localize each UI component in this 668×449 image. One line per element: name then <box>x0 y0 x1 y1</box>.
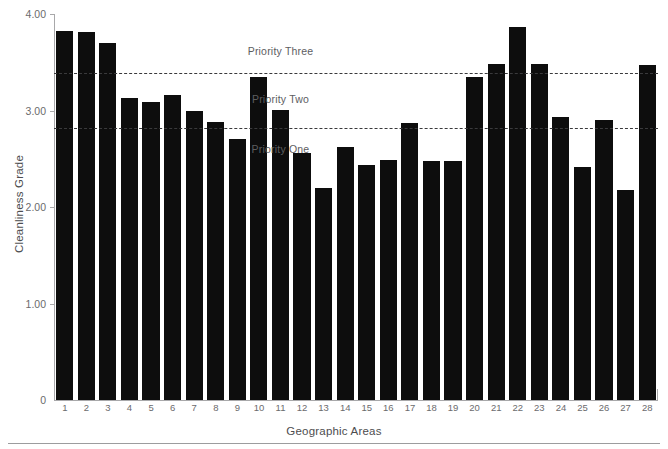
y-tick-label: 4.00 <box>6 8 46 20</box>
x-tick-label: 4 <box>119 402 141 413</box>
priority-annotation: Priority Two <box>252 93 309 105</box>
bar <box>444 161 461 400</box>
x-tick-label: 25 <box>572 402 594 413</box>
bar <box>358 165 375 400</box>
x-tick-label: 27 <box>615 402 637 413</box>
x-tick-label: 10 <box>248 402 270 413</box>
bar <box>207 122 224 400</box>
priority-annotation: Priority One <box>252 143 310 155</box>
bar <box>250 77 267 400</box>
x-tick-label: 17 <box>399 402 421 413</box>
plot-area: 01.002.003.004.00 Priority ThreePriority… <box>54 14 658 400</box>
bar <box>531 64 548 400</box>
x-tick-label: 3 <box>97 402 119 413</box>
x-tick-label: 23 <box>529 402 551 413</box>
bar <box>401 123 418 400</box>
bar <box>552 117 569 400</box>
bar <box>488 64 505 400</box>
bar <box>186 111 203 401</box>
x-tick-label: 28 <box>636 402 658 413</box>
bar <box>466 77 483 400</box>
x-axis-title: Geographic Areas <box>0 425 668 437</box>
x-axis-line <box>54 400 658 401</box>
bar <box>423 161 440 400</box>
x-tick-label: 26 <box>593 402 615 413</box>
bar <box>121 98 138 400</box>
bar <box>142 102 159 400</box>
x-tick-label: 5 <box>140 402 162 413</box>
threshold-line <box>54 128 658 129</box>
bar <box>78 32 95 400</box>
bar <box>99 43 116 400</box>
x-tick-label: 1 <box>54 402 76 413</box>
x-axis-ticks: 1234567891011121314151617181920212223242… <box>54 402 658 418</box>
x-tick-label: 22 <box>507 402 529 413</box>
x-tick-label: 9 <box>227 402 249 413</box>
x-tick-label: 8 <box>205 402 227 413</box>
y-tick-label: 3.00 <box>6 105 46 117</box>
chart-figure: Cleanliness Grade 01.002.003.004.00 Prio… <box>0 0 668 449</box>
priority-annotation: Priority Three <box>248 45 314 57</box>
x-tick-label: 2 <box>76 402 98 413</box>
x-tick-label: 6 <box>162 402 184 413</box>
footer-divider <box>8 443 660 444</box>
bar <box>574 167 591 400</box>
y-tick-label: 0 <box>6 394 46 406</box>
bar <box>617 190 634 400</box>
x-tick-label: 20 <box>464 402 486 413</box>
x-tick-label: 14 <box>334 402 356 413</box>
threshold-line <box>54 73 658 74</box>
y-tick-label: 1.00 <box>6 298 46 310</box>
bar <box>229 139 246 401</box>
bar <box>380 160 397 400</box>
bar <box>509 27 526 400</box>
x-tick-label: 12 <box>291 402 313 413</box>
bar <box>595 120 612 400</box>
x-tick-label: 13 <box>313 402 335 413</box>
x-tick-label: 11 <box>270 402 292 413</box>
x-tick-label: 24 <box>550 402 572 413</box>
x-tick-label: 15 <box>356 402 378 413</box>
bar <box>164 95 181 400</box>
x-tick-label: 7 <box>183 402 205 413</box>
x-tick-label: 18 <box>421 402 443 413</box>
bar <box>56 31 73 400</box>
x-tick-label: 16 <box>378 402 400 413</box>
bar <box>315 188 332 400</box>
x-tick-label: 21 <box>485 402 507 413</box>
x-tick-label: 19 <box>442 402 464 413</box>
y-tick-label: 2.00 <box>6 201 46 213</box>
bar <box>293 153 310 400</box>
bar <box>337 147 354 400</box>
bar <box>639 65 656 400</box>
